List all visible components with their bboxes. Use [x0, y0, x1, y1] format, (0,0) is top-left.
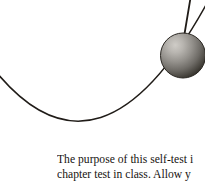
figure-caption: The purpose of this self-test i chapter …	[57, 152, 205, 183]
pendulum-bob-sphere	[161, 33, 206, 78]
figure-page: The purpose of this self-test i chapter …	[0, 0, 205, 183]
caption-line-2: chapter test in class. Allow y	[57, 167, 205, 182]
caption-line-1: The purpose of this self-test i	[57, 152, 205, 167]
